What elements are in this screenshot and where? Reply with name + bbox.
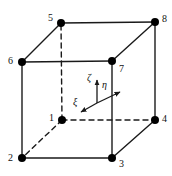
node-label-5: 5 xyxy=(48,13,53,23)
node-marker-8 xyxy=(151,18,159,26)
node-marker-1 xyxy=(58,116,66,124)
node-label-6: 6 xyxy=(8,56,13,66)
edge-7-6 xyxy=(22,61,112,62)
node-label-3: 3 xyxy=(119,159,124,169)
node-label-8: 8 xyxy=(162,14,167,24)
natural-coordinate-axes xyxy=(81,80,120,112)
node-label-1: 1 xyxy=(49,113,54,123)
node-marker-3 xyxy=(108,154,116,162)
axis-eta-arrow xyxy=(97,92,120,103)
cube-diagram-canvas xyxy=(0,0,172,176)
node-marker-5 xyxy=(57,19,65,27)
hexahedral-element-figure: 12345678 ζηξ xyxy=(0,0,172,176)
edge-5-8 xyxy=(61,22,155,23)
axis-xi-arrow xyxy=(81,103,97,112)
axis-label-xi: ξ xyxy=(73,97,77,107)
axis-label-eta: η xyxy=(102,80,107,90)
edge-1-5 xyxy=(61,23,62,120)
edge-6-5 xyxy=(22,23,61,62)
edge-8-7 xyxy=(112,22,155,61)
node-marker-6 xyxy=(18,58,26,66)
edge-3-4 xyxy=(112,120,155,158)
cube-node-markers xyxy=(18,18,159,162)
cube-solid-edges xyxy=(22,22,155,158)
node-marker-7 xyxy=(108,57,116,65)
axis-label-zeta: ζ xyxy=(87,73,91,83)
node-label-2: 2 xyxy=(8,153,13,163)
node-marker-2 xyxy=(18,154,26,162)
node-label-7: 7 xyxy=(119,64,124,74)
node-label-4: 4 xyxy=(162,114,167,124)
node-marker-4 xyxy=(151,116,159,124)
edge-1-2 xyxy=(22,120,62,158)
